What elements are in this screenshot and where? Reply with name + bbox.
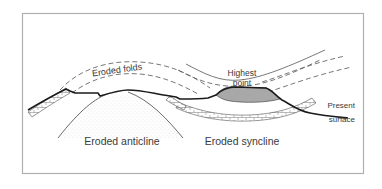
diagram-frame bbox=[23, 14, 364, 174]
label-eroded-anticline: Eroded anticline bbox=[84, 135, 159, 147]
label-present-surface-line2: surface bbox=[329, 115, 356, 124]
fold-erosion-diagram: Eroded folds Highest point Present surfa… bbox=[0, 0, 382, 189]
label-eroded-syncline: Eroded syncline bbox=[205, 135, 280, 147]
label-present-surface-line1: Present bbox=[327, 101, 355, 110]
label-highest-point-line2: point bbox=[233, 78, 252, 88]
label-highest-point-line1: Highest bbox=[228, 68, 257, 78]
